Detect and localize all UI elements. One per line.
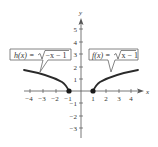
y-axis-label: y bbox=[78, 9, 83, 17]
y-tick-label: −1 bbox=[70, 100, 78, 108]
y-tick-label: 1 bbox=[74, 76, 78, 84]
y-tick-label: 5 bbox=[74, 26, 78, 34]
y-tick-label: −3 bbox=[70, 125, 78, 133]
x-tick-label: 4 bbox=[129, 95, 133, 103]
y-tick-labels: 5 4 3 2 1 −1 −2 −3 bbox=[70, 26, 78, 133]
y-tick-label: 2 bbox=[74, 64, 78, 72]
x-axis-label: x bbox=[145, 88, 150, 96]
f-callout-radicand: x − 1 bbox=[122, 51, 139, 60]
h-endpoint-dot bbox=[66, 88, 71, 93]
x-tick-label: −4 bbox=[25, 95, 33, 103]
h-callout: h(x) = −x − 1 bbox=[10, 49, 71, 72]
x-tick-labels: −4 −3 −2 −1 1 2 3 4 bbox=[25, 95, 133, 103]
x-tick-label: −3 bbox=[38, 95, 46, 103]
function-graph: −4 −3 −2 −1 1 2 3 4 5 4 3 2 1 −1 −2 −3 x… bbox=[0, 0, 158, 147]
y-tick-label: 3 bbox=[74, 51, 78, 59]
x-tick-label: 1 bbox=[91, 95, 95, 103]
x-tick-label: −2 bbox=[51, 95, 59, 103]
axes bbox=[24, 22, 140, 138]
h-curve bbox=[24, 70, 69, 91]
x-tick-label: 2 bbox=[104, 95, 108, 103]
y-tick-label: 4 bbox=[74, 39, 78, 47]
f-curve bbox=[93, 70, 138, 91]
f-callout: f(x) = x − 1 bbox=[89, 49, 138, 72]
f-endpoint-dot bbox=[90, 88, 95, 93]
h-callout-prefix: h(x) = bbox=[14, 51, 34, 60]
f-callout-prefix: f(x) = bbox=[92, 51, 111, 60]
h-callout-radicand: −x − 1 bbox=[46, 51, 67, 60]
x-tick-label: 3 bbox=[117, 95, 121, 103]
y-tick-label: −2 bbox=[70, 113, 78, 121]
